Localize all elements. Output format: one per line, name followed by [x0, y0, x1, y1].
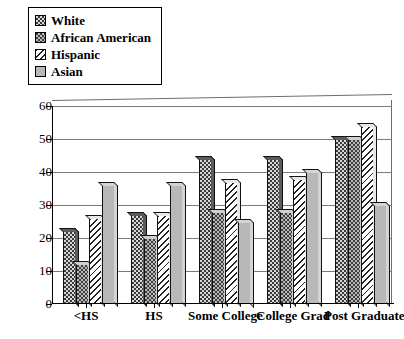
bar: [306, 172, 319, 304]
bar: [335, 139, 348, 304]
legend-item-white: White: [35, 12, 151, 29]
bar: [89, 218, 102, 304]
legend-label-hispanic: Hispanic: [51, 48, 100, 61]
bar: [280, 212, 293, 304]
bar-side-face: [114, 182, 118, 307]
y-tick-label: 0: [30, 296, 52, 312]
x-axis: [52, 303, 394, 304]
x-tick-label: <HS: [52, 308, 120, 324]
bar: [170, 185, 183, 304]
bar: [131, 215, 144, 304]
y-tick-label: 40: [30, 164, 52, 180]
bar: [199, 159, 212, 304]
y-tick-label: 10: [30, 263, 52, 279]
bar-side-face: [250, 219, 254, 308]
legend-item-asian: Asian: [35, 63, 151, 80]
x-tick-mark: [86, 303, 87, 308]
bar-group: [131, 106, 183, 304]
bar-group: [199, 106, 251, 304]
x-tick-label: Some College: [188, 308, 256, 324]
x-tick-mark: [358, 303, 359, 308]
y-tick-label: 30: [30, 197, 52, 213]
bar: [102, 185, 115, 304]
bar: [144, 238, 157, 304]
legend-swatch-african-american-icon: [35, 32, 46, 43]
bar-group: [267, 106, 319, 304]
bar: [76, 264, 89, 304]
bar-chart: White African American Hispanic Asian 01…: [0, 0, 404, 339]
plot-top-edge: [52, 94, 392, 101]
x-tick-label: College Grad: [256, 308, 324, 324]
bar: [63, 231, 76, 304]
bar: [212, 212, 225, 304]
bar-group: [63, 106, 115, 304]
bar: [157, 215, 170, 304]
legend-label-white: White: [51, 14, 85, 27]
bar: [361, 126, 374, 304]
chart-legend: White African American Hispanic Asian: [28, 7, 162, 85]
bar: [374, 205, 387, 304]
legend-swatch-hispanic-icon: [35, 49, 46, 60]
y-tick-label: 20: [30, 230, 52, 246]
bar: [267, 159, 280, 304]
x-tick-label: HS: [120, 308, 188, 324]
legend-label-asian: Asian: [51, 65, 83, 78]
bar-group: [335, 106, 387, 304]
bar: [293, 179, 306, 304]
bar: [238, 222, 251, 305]
bar-side-face: [386, 202, 390, 307]
legend-swatch-asian-icon: [35, 66, 46, 77]
x-tick-mark: [222, 303, 223, 308]
bar-side-face: [318, 169, 322, 307]
bar-side-face: [182, 182, 186, 307]
x-tick-mark: [290, 303, 291, 308]
legend-swatch-white-icon: [35, 15, 46, 26]
legend-item-hispanic: Hispanic: [35, 46, 151, 63]
plot-area: [52, 106, 392, 304]
bar: [348, 139, 361, 304]
bar: [225, 182, 238, 304]
x-tick-mark: [154, 303, 155, 308]
y-tick-label: 60: [30, 98, 52, 114]
legend-item-african-american: African American: [35, 29, 151, 46]
legend-label-african-american: African American: [51, 31, 151, 44]
y-tick-label: 50: [30, 131, 52, 147]
x-tick-label: Post Graduate: [324, 308, 392, 324]
